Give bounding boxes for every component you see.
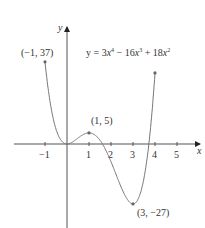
annotation-min: (3, −27) [137, 207, 169, 219]
x-tick-label: 4 [152, 149, 157, 160]
annotation-local-max: (1, 5) [91, 115, 113, 127]
x-axis-label: x [196, 145, 202, 156]
x-tick-label: 2 [108, 149, 113, 160]
x-tick-label: 5 [174, 149, 179, 160]
x-tick-label: 1 [86, 149, 91, 160]
x-tick-label: −1 [39, 149, 50, 160]
function-curve [45, 62, 155, 204]
points [43, 60, 156, 205]
equation-label: y = 3x4 − 16x3 + 18x2 [86, 47, 170, 58]
x-tick-label: 3 [130, 149, 135, 160]
y-axis-label: y [57, 22, 63, 33]
chart: −112345 y x y = 3x4 − 16x3 + 18x2 (−1, 3… [0, 0, 205, 228]
annotation-max-left: (−1, 37) [21, 47, 53, 59]
